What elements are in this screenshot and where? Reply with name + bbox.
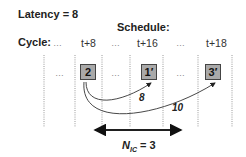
edge-label-10: 10 xyxy=(172,102,183,113)
node-1-prime: 1′ xyxy=(141,64,157,80)
row-ellipsis-3: … xyxy=(176,68,185,78)
node-2: 2 xyxy=(80,64,96,80)
span-label: NIC = 3 xyxy=(122,139,156,153)
node-3-prime: 3′ xyxy=(205,64,221,80)
span-label-n: N xyxy=(122,139,130,151)
edge-label-8: 8 xyxy=(139,92,145,103)
row-ellipsis-2: … xyxy=(111,68,120,78)
row-ellipsis-1: … xyxy=(55,68,64,78)
span-label-value: = 3 xyxy=(137,139,156,151)
span-label-sub: IC xyxy=(130,146,137,153)
